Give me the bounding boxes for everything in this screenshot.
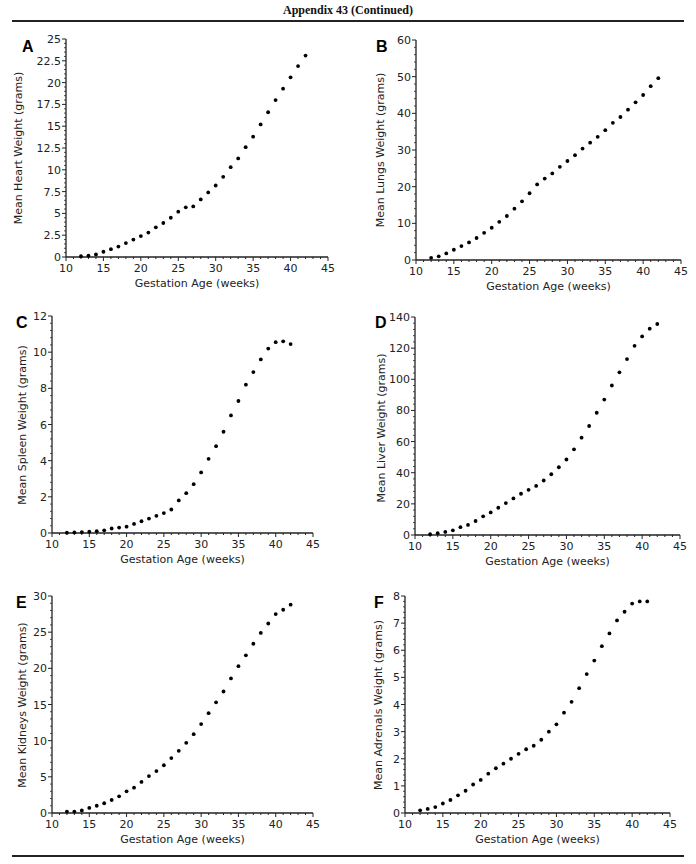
data-point bbox=[566, 159, 570, 163]
data-point bbox=[648, 327, 652, 331]
data-point bbox=[539, 738, 543, 742]
data-point bbox=[645, 600, 649, 604]
data-point bbox=[513, 207, 517, 211]
data-point bbox=[259, 631, 263, 635]
data-point bbox=[547, 730, 551, 734]
data-point bbox=[464, 789, 468, 793]
data-point bbox=[304, 54, 308, 58]
data-point bbox=[449, 798, 453, 802]
data-point bbox=[490, 226, 494, 230]
data-point bbox=[630, 602, 634, 606]
y-axis-title: Mean Spleen Weight (grams) bbox=[16, 345, 29, 505]
data-point bbox=[543, 177, 547, 181]
y-tick-label: 15 bbox=[47, 120, 61, 133]
data-point bbox=[102, 528, 106, 532]
data-point bbox=[117, 794, 121, 798]
y-tick-label: 10 bbox=[397, 217, 411, 230]
data-point bbox=[117, 526, 121, 530]
x-tick-label: 35 bbox=[231, 538, 245, 551]
x-tick-label: 15 bbox=[82, 818, 96, 831]
data-point bbox=[155, 514, 159, 518]
x-tick-label: 10 bbox=[398, 818, 412, 831]
chart-e: 1015202530354045051015202530Gestation Ag… bbox=[16, 590, 320, 846]
data-point bbox=[95, 529, 99, 533]
y-tick-label: 6 bbox=[393, 644, 400, 657]
data-point bbox=[634, 100, 638, 104]
chart-b: 10152025303540450102030405060Gestation A… bbox=[374, 34, 688, 293]
x-axis-title: Gestation Age (weeks) bbox=[120, 833, 245, 846]
x-tick-label: 20 bbox=[120, 538, 134, 551]
x-tick-label: 35 bbox=[231, 818, 245, 831]
x-axis-title: Gestation Age (weeks) bbox=[486, 280, 611, 293]
data-point bbox=[244, 653, 248, 657]
data-point bbox=[451, 528, 455, 532]
x-tick-label: 40 bbox=[269, 818, 283, 831]
data-point bbox=[72, 531, 76, 535]
data-point bbox=[562, 711, 566, 715]
x-tick-label: 10 bbox=[45, 538, 59, 551]
x-tick-label: 45 bbox=[663, 818, 677, 831]
data-point bbox=[199, 471, 203, 475]
data-point bbox=[154, 225, 158, 229]
x-tick-label: 40 bbox=[635, 540, 649, 553]
data-point bbox=[482, 231, 486, 235]
data-point bbox=[460, 244, 464, 248]
data-point bbox=[524, 747, 528, 751]
data-point bbox=[191, 205, 195, 209]
data-point bbox=[125, 525, 129, 529]
x-tick-label: 45 bbox=[306, 538, 320, 551]
x-tick-label: 15 bbox=[446, 540, 460, 553]
data-point bbox=[456, 793, 460, 797]
data-point bbox=[281, 608, 285, 612]
data-point bbox=[221, 175, 225, 179]
data-point bbox=[595, 411, 599, 415]
data-point bbox=[259, 358, 263, 362]
chart-panels: 101520253035404502.557.51012.51517.52022… bbox=[0, 0, 696, 864]
x-tick-label: 25 bbox=[512, 818, 526, 831]
x-tick-label: 45 bbox=[673, 540, 687, 553]
x-tick-label: 20 bbox=[485, 265, 499, 278]
x-tick-label: 10 bbox=[408, 540, 422, 553]
data-point bbox=[140, 519, 144, 523]
y-tick-label: 12.5 bbox=[37, 142, 62, 155]
data-point bbox=[509, 757, 513, 761]
data-point bbox=[587, 424, 591, 428]
data-point bbox=[266, 622, 270, 626]
data-point bbox=[426, 807, 430, 811]
data-point bbox=[519, 492, 523, 496]
y-tick-label: 20 bbox=[397, 181, 411, 194]
data-point bbox=[117, 245, 121, 249]
data-point bbox=[512, 497, 516, 501]
x-tick-label: 20 bbox=[474, 818, 488, 831]
y-tick-label: 0 bbox=[54, 251, 61, 264]
data-point bbox=[486, 772, 490, 776]
data-point bbox=[580, 436, 584, 440]
data-point bbox=[555, 722, 559, 726]
data-point bbox=[429, 256, 433, 260]
data-point bbox=[289, 603, 293, 607]
data-point bbox=[565, 458, 569, 462]
data-point bbox=[65, 810, 69, 814]
data-point bbox=[626, 108, 630, 112]
data-point bbox=[237, 399, 241, 403]
data-point bbox=[161, 221, 165, 225]
data-point bbox=[592, 659, 596, 663]
data-point bbox=[459, 525, 463, 529]
data-point bbox=[289, 75, 293, 79]
data-point bbox=[87, 254, 91, 258]
data-point bbox=[139, 234, 143, 238]
y-tick-label: 6 bbox=[40, 419, 47, 432]
y-tick-label: 140 bbox=[389, 311, 410, 324]
x-tick-label: 20 bbox=[134, 262, 148, 275]
x-tick-label: 30 bbox=[559, 540, 573, 553]
data-point bbox=[274, 98, 278, 102]
data-point bbox=[147, 774, 151, 778]
x-tick-label: 15 bbox=[436, 818, 450, 831]
data-point bbox=[177, 499, 181, 503]
data-point bbox=[132, 786, 136, 790]
data-point bbox=[502, 762, 506, 766]
panel-label: B bbox=[376, 38, 388, 55]
data-point bbox=[176, 210, 180, 214]
data-point bbox=[625, 357, 629, 361]
x-axis-title: Gestation Age (weeks) bbox=[135, 277, 260, 290]
